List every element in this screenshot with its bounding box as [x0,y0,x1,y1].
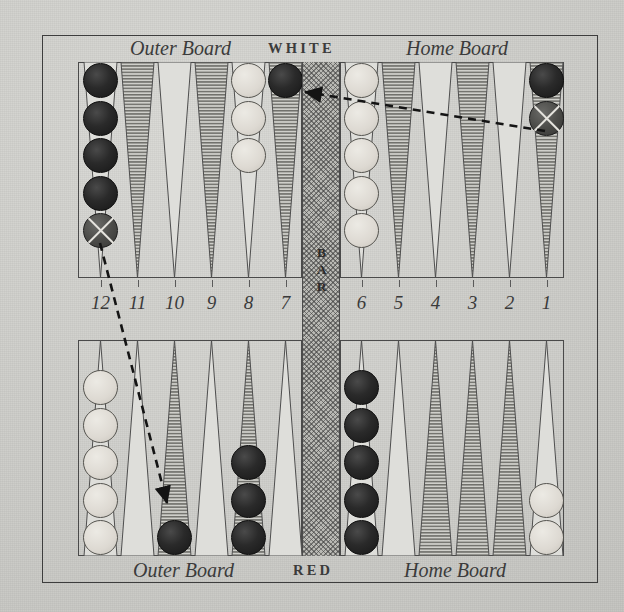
point-top-9[interactable] [193,62,230,278]
point-tick [101,280,102,287]
point-triangle-icon [380,62,417,278]
point-triangle-icon [454,340,491,556]
caption-bottom-player-red: RED [293,562,333,579]
point-number-strip: 121110987654321 [78,286,564,330]
checker-light[interactable] [231,101,266,136]
point-triangle-icon [491,62,528,278]
point-tick [249,280,250,287]
point-bottom-11[interactable] [119,340,156,556]
point-number-8: 8 [230,292,267,314]
caption-bottom-home-board: Home Board [404,559,506,582]
point-triangle-icon [491,340,528,556]
checker-dark[interactable] [83,63,118,98]
point-number-7: 7 [267,292,304,314]
point-tick [212,280,213,287]
point-top-12[interactable] [82,62,119,278]
point-bottom-9[interactable] [193,340,230,556]
point-number-1: 1 [528,292,565,314]
checker-dark[interactable] [344,445,379,480]
point-top-1[interactable] [528,62,565,278]
point-bottom-2[interactable] [491,340,528,556]
checker-dark[interactable] [231,483,266,518]
point-bottom-3[interactable] [454,340,491,556]
point-number-9: 9 [193,292,230,314]
point-number-4: 4 [417,292,454,314]
point-number-12: 12 [82,292,119,314]
point-triangle-icon [193,62,230,278]
point-top-11[interactable] [119,62,156,278]
checker-dark[interactable] [83,176,118,211]
checker-light[interactable] [83,520,118,555]
caption-top-outer-board: Outer Board [130,37,231,60]
point-top-8[interactable] [230,62,267,278]
checker-light[interactable] [344,176,379,211]
caption-bottom-outer-board: Outer Board [133,559,234,582]
point-top-2[interactable] [491,62,528,278]
checker-dark[interactable] [344,483,379,518]
point-number-5: 5 [380,292,417,314]
bar-letter-1: A [303,261,341,278]
checker-light[interactable] [231,63,266,98]
point-bottom-10[interactable] [156,340,193,556]
point-bottom-8[interactable] [230,340,267,556]
point-tick [399,280,400,287]
checker-light[interactable] [231,138,266,173]
point-top-10[interactable] [156,62,193,278]
checker-dark[interactable] [231,520,266,555]
checker-dark[interactable] [344,408,379,443]
board-half-bottom [78,340,564,556]
checker-dark[interactable] [529,63,564,98]
checker-light[interactable] [344,138,379,173]
point-tick [175,280,176,287]
point-bottom-6[interactable] [343,340,380,556]
point-bottom-12[interactable] [82,340,119,556]
caption-top-player-white: WHITE [268,40,335,57]
checker-dark[interactable] [344,370,379,405]
caption-top-home-board: Home Board [406,37,508,60]
point-triangle-icon [119,340,156,556]
checker-marked[interactable] [83,213,118,248]
point-bottom-4[interactable] [417,340,454,556]
point-triangle-icon [267,340,304,556]
point-tick [510,280,511,287]
checker-light[interactable] [83,370,118,405]
point-top-5[interactable] [380,62,417,278]
point-number-2: 2 [491,292,528,314]
checker-light[interactable] [529,483,564,518]
checker-dark[interactable] [268,63,303,98]
point-top-4[interactable] [417,62,454,278]
point-triangle-icon [380,340,417,556]
checker-dark[interactable] [344,520,379,555]
point-triangle-icon [417,62,454,278]
checker-light[interactable] [344,63,379,98]
checker-dark[interactable] [83,101,118,136]
point-bottom-1[interactable] [528,340,565,556]
checker-dark[interactable] [231,445,266,480]
point-tick [547,280,548,287]
checker-light[interactable] [83,408,118,443]
point-tick [362,280,363,287]
checker-marked[interactable] [529,101,564,136]
point-number-10: 10 [156,292,193,314]
checker-light[interactable] [83,445,118,480]
point-tick [436,280,437,287]
point-triangle-icon [454,62,491,278]
point-top-6[interactable] [343,62,380,278]
checker-dark[interactable] [157,520,192,555]
point-triangle-icon [156,62,193,278]
point-number-3: 3 [454,292,491,314]
point-tick [138,280,139,287]
checker-light[interactable] [83,483,118,518]
point-bottom-5[interactable] [380,340,417,556]
checker-light[interactable] [529,520,564,555]
point-bottom-7[interactable] [267,340,304,556]
point-triangle-icon [193,340,230,556]
checker-light[interactable] [344,101,379,136]
point-tick [286,280,287,287]
checker-dark[interactable] [83,138,118,173]
bar-letter-0: B [303,244,341,261]
point-top-7[interactable] [267,62,304,278]
point-top-3[interactable] [454,62,491,278]
checker-light[interactable] [344,213,379,248]
point-triangle-icon [417,340,454,556]
